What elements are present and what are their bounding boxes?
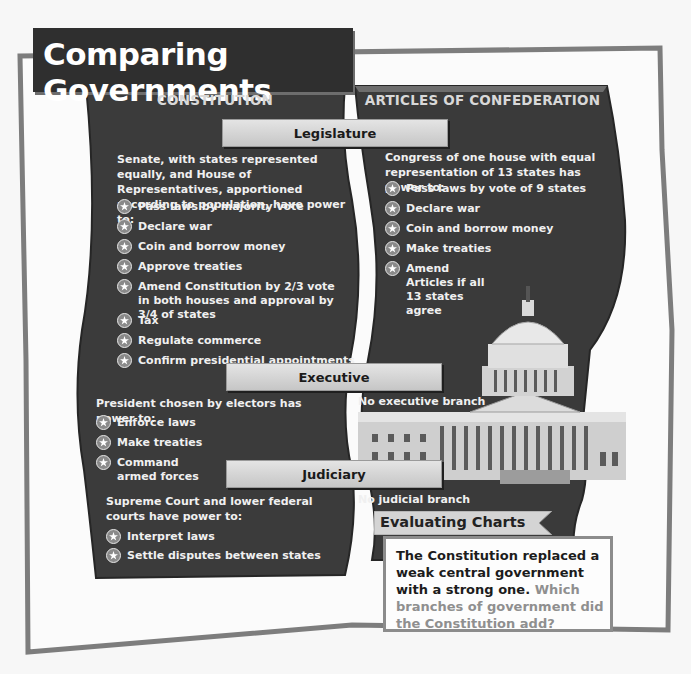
list-item: Pass laws by majority vote [117,200,304,214]
star-icon [117,219,132,234]
list-item: Make treaties [385,242,491,256]
star-icon [96,455,111,470]
list-item: Approve treaties [117,260,242,274]
column-header-articles: ARTICLES OF CONFEDERATION [360,92,605,108]
star-icon [385,241,400,256]
list-item: Settle disputes between states [106,549,321,563]
list-item: Regulate commerce [117,334,261,348]
list-item: Amend Articles if all 13 states agree [385,262,500,318]
legislature-bar: Legislature [222,119,448,147]
evaluating-charts-box: The Constitution replaced a weak central… [383,536,613,632]
list-item: Tax [117,314,159,328]
column-header-constitution: CONSTITUTION [90,92,340,108]
star-icon [385,221,400,236]
star-icon [385,181,400,196]
star-icon [96,435,111,450]
list-item: Interpret laws [106,530,215,544]
star-icon [117,353,132,368]
list-item: Declare war [385,202,480,216]
legislature-label: Legislature [294,126,377,141]
articles-executive-intro: No executive branch [358,394,485,409]
star-icon [385,261,400,276]
list-item: Coin and borrow money [117,240,285,254]
star-icon [117,333,132,348]
judiciary-label: Judiciary [302,467,366,482]
list-item: Command armed forces [96,456,206,484]
executive-label: Executive [298,370,369,385]
star-icon [117,199,132,214]
list-item: Coin and borrow money [385,222,553,236]
star-icon [106,529,121,544]
star-icon [117,313,132,328]
page-title: Comparing Governments [33,28,353,92]
star-icon [117,239,132,254]
list-item: Declare war [117,220,212,234]
executive-bar: Executive [226,363,442,391]
star-icon [117,259,132,274]
articles-judiciary-intro: No judicial branch [358,492,470,507]
judiciary-bar: Judiciary [226,460,442,488]
list-item: Enforce laws [96,416,196,430]
list-item: Pass laws by vote of 9 states [385,182,586,196]
star-icon [96,415,111,430]
constitution-legislature-intro: Senate, with states represented equally,… [117,152,347,227]
evaluating-charts-label: Evaluating Charts [374,511,552,535]
constitution-judiciary-intro: Supreme Court and lower federal courts h… [106,494,326,524]
star-icon [385,201,400,216]
star-icon [117,279,132,294]
star-icon [106,548,121,563]
list-item: Make treaties [96,436,202,450]
